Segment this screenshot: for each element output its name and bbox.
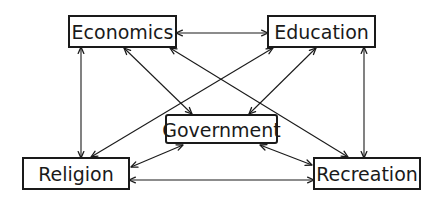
institutions-diagram: Economics Education Government Religion …: [0, 0, 442, 202]
edge-line-economics-government: [124, 48, 192, 114]
arrowhead-education-icon: [266, 48, 273, 54]
edge-line-recreation-government: [260, 145, 312, 165]
arrowhead-religion-icon: [91, 151, 98, 157]
edge-recreation-government: [260, 145, 312, 166]
edge-religion-recreation: [129, 177, 314, 183]
node-religion: Religion: [23, 158, 129, 189]
node-recreation-label: Recreation: [316, 163, 418, 185]
arrowhead-recreation-icon: [341, 151, 348, 157]
edge-economics-government: [124, 48, 192, 114]
edge-education-recreation: [361, 47, 367, 158]
node-government-label: Government: [162, 119, 281, 141]
node-education: Education: [268, 16, 375, 47]
edge-line-religion-government: [131, 145, 183, 167]
node-recreation: Recreation: [314, 158, 420, 189]
arrowhead-economics-icon: [170, 48, 177, 54]
nodes-layer: Economics Education Government Religion …: [23, 16, 420, 189]
node-government: Government: [162, 115, 281, 143]
node-religion-label: Religion: [38, 163, 114, 185]
edge-line-education-government: [249, 48, 316, 114]
edge-economics-religion: [78, 47, 84, 158]
node-economics: Economics: [69, 16, 176, 47]
node-economics-label: Economics: [72, 21, 174, 43]
edge-education-government: [249, 48, 316, 114]
node-education-label: Education: [274, 21, 369, 43]
edge-religion-government: [131, 145, 183, 167]
edge-economics-education: [176, 30, 268, 36]
